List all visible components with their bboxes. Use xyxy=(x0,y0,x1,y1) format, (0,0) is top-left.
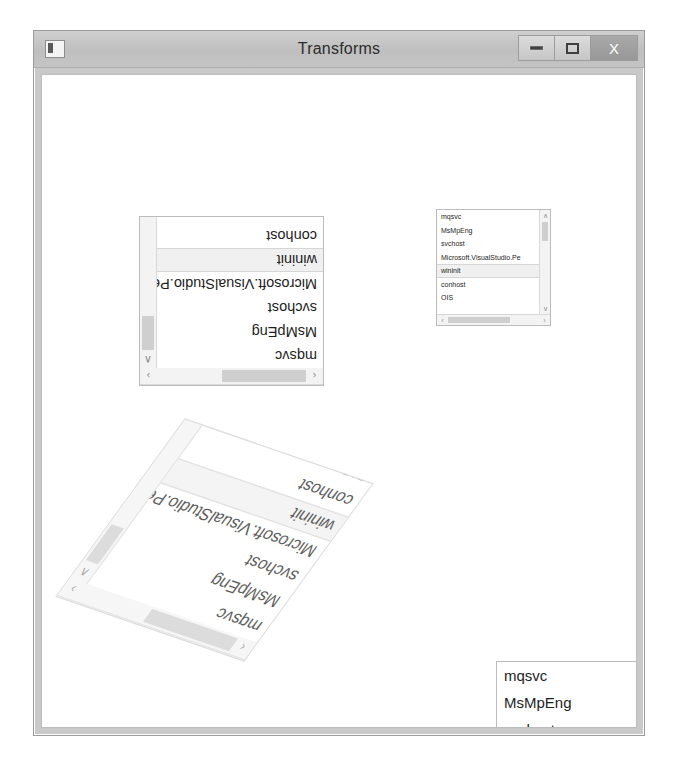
listbox-scaled-small[interactable]: mqsvc MsMpEng svchost Microsoft.VisualSt… xyxy=(436,209,551,326)
list-item[interactable]: OIS xyxy=(157,216,323,224)
close-button[interactable]: X xyxy=(590,35,638,61)
scroll-left-icon[interactable]: ‹ xyxy=(437,315,448,325)
skewed-listbox-container: ‹ › ∧ mqsvc MsMpEng svchost Microsoft.Vi… xyxy=(102,435,362,728)
horizontal-scroll-thumb[interactable] xyxy=(448,317,510,323)
list-item[interactable]: MsMpEng xyxy=(437,224,539,238)
vertical-scroll-thumb[interactable] xyxy=(142,316,154,350)
list-item[interactable]: wininit xyxy=(437,264,539,278)
list-item[interactable]: svchost xyxy=(157,296,323,320)
list-item[interactable]: wininit xyxy=(157,248,323,272)
list-item[interactable]: mqsvc xyxy=(157,344,323,368)
list-item[interactable]: MsMpEng xyxy=(157,320,323,344)
window-client-area: ‹ › ∧ mqsvc MsMpEng svchost Microsoft.Vi… xyxy=(41,74,637,728)
scroll-up-icon[interactable]: ∧ xyxy=(140,351,156,368)
horizontal-scrollbar[interactable]: ‹ › xyxy=(140,368,323,385)
scroll-down-icon[interactable]: ∨ xyxy=(540,303,550,314)
list-item[interactable]: conhost xyxy=(437,278,539,292)
application-window: Transforms X ‹ › ∧ mqsvc M xyxy=(33,30,645,736)
listbox-items: mqsvc MsMpEng svchost Microsoft.VisualSt… xyxy=(497,662,637,728)
horizontal-scroll-thumb[interactable] xyxy=(222,370,306,382)
app-icon xyxy=(45,40,65,58)
scroll-right-icon[interactable]: › xyxy=(539,315,550,325)
listbox-rotated-180[interactable]: ‹ › ∧ mqsvc MsMpEng svchost Microsoft.Vi… xyxy=(139,216,324,386)
list-item[interactable]: mqsvc xyxy=(497,662,637,689)
scroll-left-icon[interactable]: ‹ xyxy=(306,368,323,384)
list-item[interactable]: Microsoft.VisualStudio.Pe xyxy=(437,251,539,265)
scroll-up-icon[interactable]: ∧ xyxy=(540,210,550,221)
window-controls: X xyxy=(519,35,638,59)
list-item[interactable]: OIS xyxy=(437,291,539,305)
minimize-icon xyxy=(530,46,543,50)
scroll-right-icon[interactable]: › xyxy=(140,368,157,384)
list-item[interactable]: Microsoft.VisualStudio.Pe xyxy=(157,272,323,296)
listbox-items: mqsvc MsMpEng svchost Microsoft.VisualSt… xyxy=(437,210,539,305)
vertical-scrollbar[interactable]: ∧ ∨ xyxy=(539,210,550,314)
listbox-items: mqsvc MsMpEng svchost Microsoft.VisualSt… xyxy=(157,216,323,368)
window-titlebar[interactable]: Transforms X xyxy=(34,31,644,68)
maximize-icon xyxy=(566,43,579,54)
vertical-scrollbar[interactable]: ∧ xyxy=(140,217,157,368)
list-item[interactable]: svchost xyxy=(437,237,539,251)
horizontal-scrollbar[interactable]: ‹ › xyxy=(437,314,550,325)
listbox-skewed-rotated[interactable]: ‹ › ∧ mqsvc MsMpEng svchost Microsoft.Vi… xyxy=(55,418,373,661)
list-item[interactable]: MsMpEng xyxy=(497,689,637,716)
list-item[interactable]: mqsvc xyxy=(437,210,539,224)
list-item[interactable]: conhost xyxy=(157,224,323,248)
list-item[interactable]: svchost xyxy=(497,716,637,728)
maximize-button[interactable] xyxy=(554,35,591,61)
minimize-button[interactable] xyxy=(518,35,555,61)
vertical-scroll-thumb[interactable] xyxy=(542,222,548,241)
listbox-large-normal[interactable]: mqsvc MsMpEng svchost Microsoft.VisualSt… xyxy=(496,661,637,728)
